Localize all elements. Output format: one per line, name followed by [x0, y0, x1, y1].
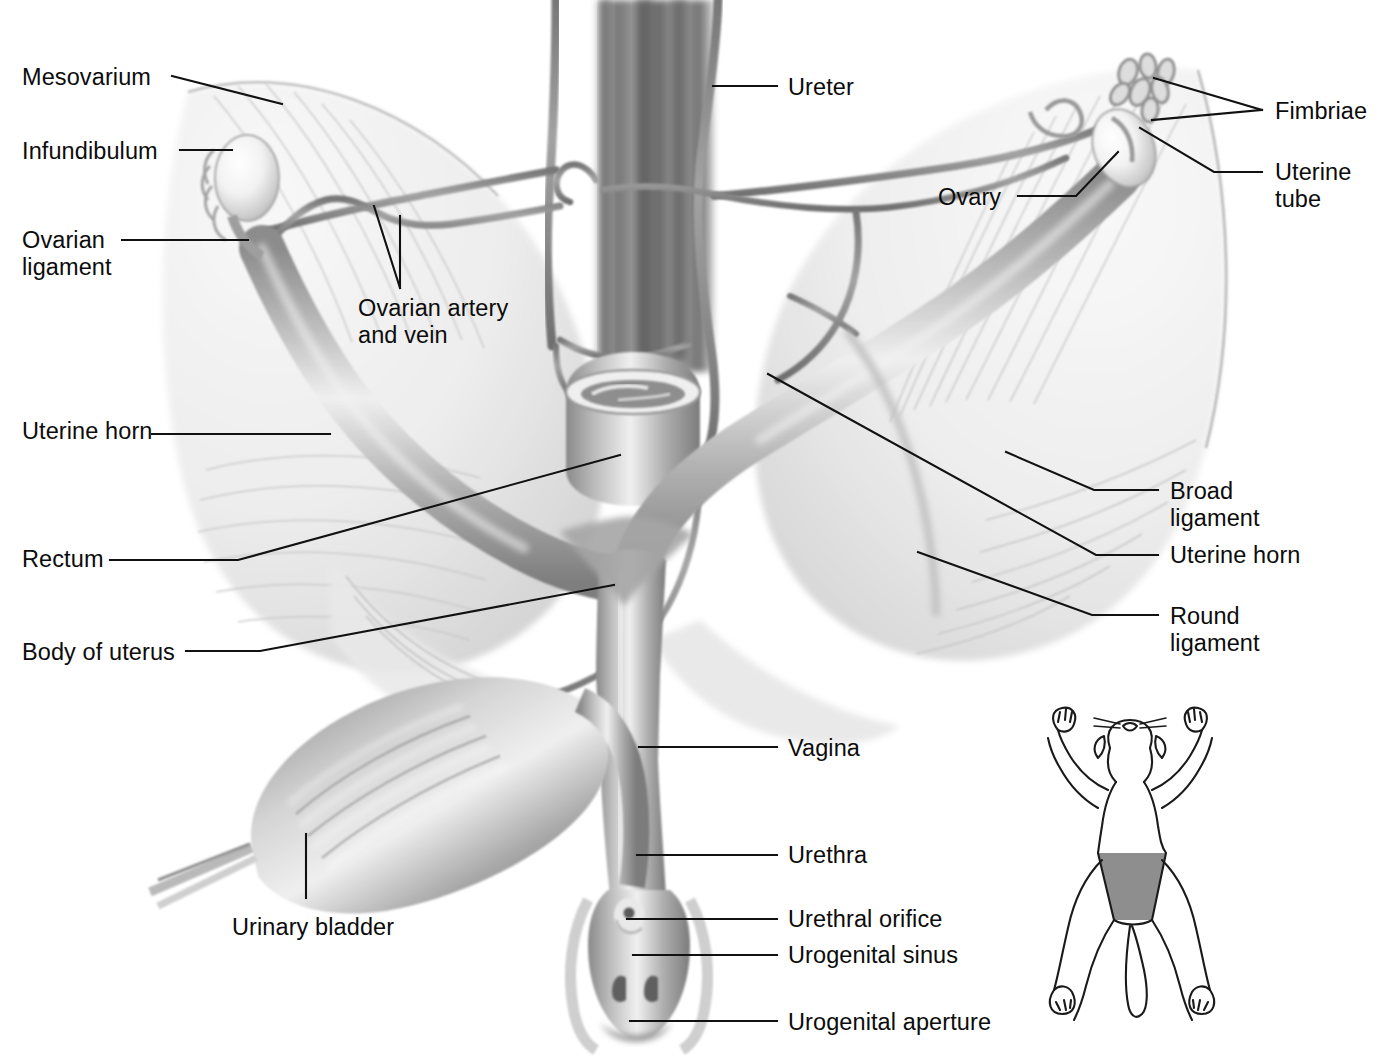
- label-ureter: Ureter: [788, 74, 854, 101]
- label-urinary-bladder: Urinary bladder: [232, 914, 394, 941]
- label-round-ligament: Round ligament: [1170, 603, 1260, 657]
- cat-hindleg-left: [1054, 860, 1102, 990]
- label-uterine-tube: Uterine tube: [1275, 159, 1351, 213]
- label-urogenital-aperture: Urogenital aperture: [788, 1009, 991, 1036]
- label-urethral-orifice: Urethral orifice: [788, 906, 942, 933]
- label-ovary: Ovary: [938, 184, 1001, 211]
- anatomy-figure: MesovariumInfundibulumOvarian ligamentOv…: [0, 0, 1379, 1060]
- label-fimbriae: Fimbriae: [1275, 98, 1367, 125]
- label-ovarian-ligament: Ovarian ligament: [22, 227, 112, 281]
- cat-orientation-inset: [980, 690, 1260, 1030]
- cat-hindleg-right: [1162, 860, 1210, 990]
- label-body-of-uterus: Body of uterus: [22, 639, 175, 666]
- label-mesovarium: Mesovarium: [22, 64, 151, 91]
- dissection-field-shading: [1098, 853, 1166, 920]
- label-urogenital-sinus: Urogenital sinus: [788, 942, 958, 969]
- label-vagina: Vagina: [788, 735, 860, 762]
- label-uterine-horn-left: Uterine horn: [22, 418, 153, 445]
- label-ovarian-artery-vein: Ovarian artery and vein: [358, 295, 508, 349]
- label-uterine-horn-right: Uterine horn: [1170, 542, 1301, 569]
- urinary-bladder: [150, 677, 636, 913]
- cat-ear-left: [1095, 736, 1105, 758]
- cat-tail-outline: [1126, 926, 1147, 1017]
- label-rectum: Rectum: [22, 546, 104, 573]
- label-broad-ligament: Broad ligament: [1170, 478, 1260, 532]
- label-infundibulum: Infundibulum: [22, 138, 158, 165]
- cat-head-outline: [1108, 720, 1152, 748]
- cat-ear-right: [1155, 736, 1165, 758]
- label-urethra: Urethra: [788, 842, 867, 869]
